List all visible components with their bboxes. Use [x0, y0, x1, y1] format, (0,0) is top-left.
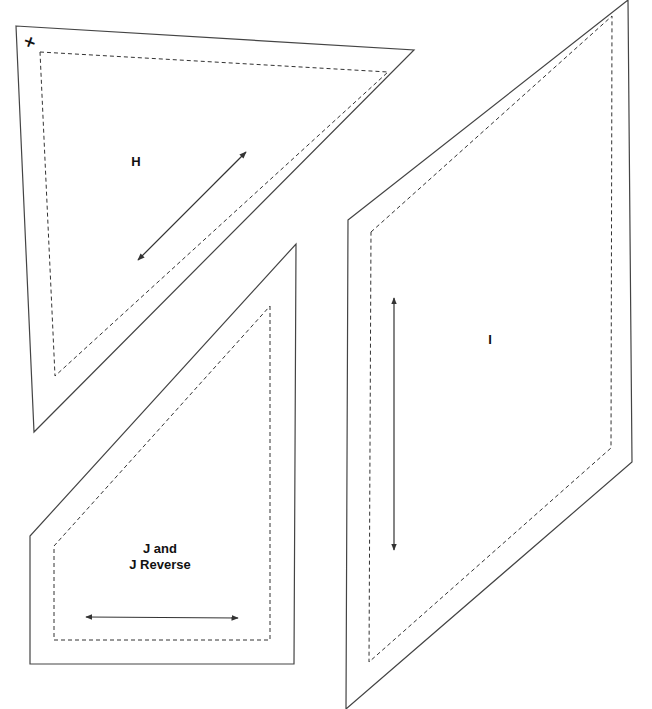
- piece-h: [16, 26, 414, 432]
- piece-j-label-line2: J Reverse: [100, 557, 220, 573]
- piece-j-cut-line: [30, 244, 296, 664]
- piece-j-grainline-arrow-icon: [86, 617, 238, 618]
- piece-j-label: J and J Reverse: [100, 541, 220, 573]
- piece-h-cut-line: [16, 26, 414, 432]
- piece-j-sew-line: [54, 306, 270, 640]
- pattern-canvas: [0, 0, 652, 709]
- piece-j-label-line1: J and: [100, 541, 220, 557]
- piece-i: [346, 0, 632, 709]
- piece-h-label: H: [126, 154, 146, 170]
- piece-h-grainline-arrow-icon: [138, 152, 246, 260]
- piece-i-cut-line: [346, 0, 632, 709]
- piece-j: [30, 244, 296, 664]
- piece-i-label: I: [480, 332, 500, 348]
- piece-h-sew-line: [40, 52, 388, 376]
